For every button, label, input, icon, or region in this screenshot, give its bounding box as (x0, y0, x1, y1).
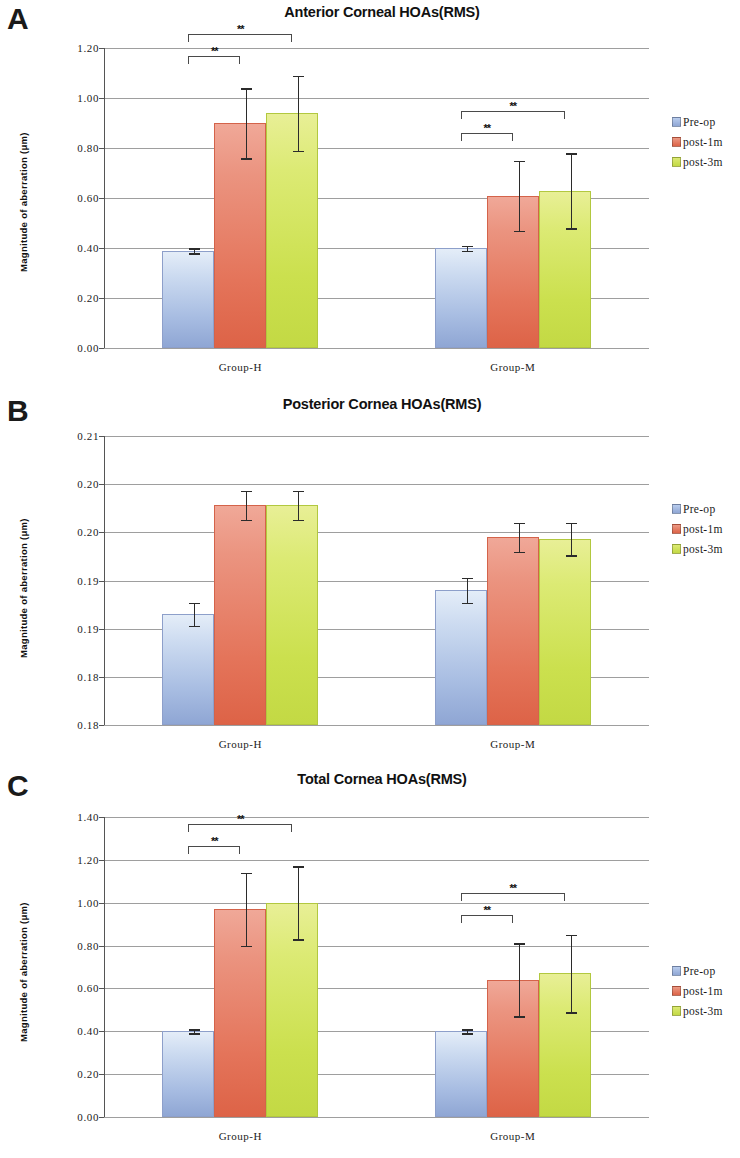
legend-swatch-post-1m-icon (672, 524, 681, 534)
significance-marker: ** (461, 101, 565, 111)
x-axis-category-label: Group-H (219, 361, 262, 373)
gridline (104, 148, 649, 149)
error-bar (298, 491, 299, 520)
error-bar-cap-bottom (514, 231, 525, 233)
error-bar-cap-bottom (514, 1016, 525, 1018)
y-axis-tick-label: 1.40 (77, 811, 99, 823)
legend-label-post-1m: post-1m (683, 523, 723, 535)
legend-item-post-1m: post-1m (672, 519, 723, 539)
panel-a-legend: Pre-op post-1m post-3m (672, 112, 723, 172)
error-bar-cap-top (293, 491, 304, 493)
bracket-tick-left (188, 824, 189, 832)
error-bar-cap-top (462, 1029, 473, 1031)
y-axis-tick-label: 1.00 (77, 897, 99, 909)
gridline (104, 1117, 649, 1118)
panel-a: A Anterior Corneal HOAs(RMS) Magnitude o… (0, 0, 740, 392)
bracket-tick-left (461, 133, 462, 141)
legend-item-post-1m: post-1m (672, 132, 723, 152)
error-bar (571, 153, 572, 228)
error-bar (298, 76, 299, 151)
error-bar-cap-top (514, 523, 525, 525)
error-bar-cap-top (189, 1029, 200, 1031)
bracket-tick-left (188, 34, 189, 42)
gridline (104, 725, 649, 726)
significance-bracket-inner: ** (461, 915, 513, 923)
error-bar-cap-bottom (293, 939, 304, 941)
error-bar-cap-bottom (241, 158, 252, 160)
legend-swatch-pre-op-icon (672, 966, 681, 976)
bracket-tick-right (291, 824, 292, 832)
gridline (104, 946, 649, 947)
bracket-tick-right (564, 893, 565, 901)
y-axis-tick-label: 0.40 (77, 1025, 99, 1037)
legend-swatch-pre-op-icon (672, 504, 681, 514)
error-bar-cap-bottom (462, 251, 473, 253)
y-axis-tick-label: 0.80 (77, 142, 99, 154)
y-axis-tick-label: 0.60 (77, 192, 99, 204)
y-axis-line (104, 436, 105, 725)
error-bar-cap-bottom (566, 555, 577, 557)
legend-label-pre-op: Pre-op (683, 116, 715, 128)
error-bar-cap-top (566, 935, 577, 937)
error-bar-cap-bottom (462, 1033, 473, 1035)
error-bar-cap-top (566, 523, 577, 525)
gridline (104, 484, 649, 485)
bar-group-h-post-1m (214, 909, 266, 1117)
bracket-tick-left (461, 915, 462, 923)
error-bar-cap-top (241, 88, 252, 90)
legend-swatch-post-3m-icon (672, 157, 681, 167)
significance-bracket-inner: ** (461, 133, 513, 141)
bar-group-h-post-3m (266, 505, 318, 725)
y-axis-tick-mark (99, 348, 104, 349)
y-axis-tick-label: 0.20 (77, 292, 99, 304)
error-bar (571, 935, 572, 1012)
x-axis-category-label: Group-M (490, 361, 535, 373)
legend-item-post-1m: post-1m (672, 981, 723, 1001)
panel-b-y-axis-label: Magnitude of aberration (μm) (18, 518, 29, 658)
bar-group-h-pre-op (162, 614, 214, 725)
bracket-tick-left (461, 111, 462, 119)
gridline (104, 532, 649, 533)
significance-marker: ** (188, 46, 240, 56)
bar-group-m-post-1m (487, 980, 539, 1117)
bar-group-m-post-3m (539, 973, 591, 1117)
legend-swatch-post-1m-icon (672, 137, 681, 147)
y-axis-tick-label: 0.80 (77, 940, 99, 952)
panel-b-title: Posterior Cornea HOAs(RMS) (0, 396, 740, 412)
error-bar-cap-top (514, 161, 525, 163)
error-bar-cap-top (189, 603, 200, 605)
error-bar-cap-bottom (514, 552, 525, 554)
panel-b-legend: Pre-op post-1m post-3m (672, 499, 723, 559)
error-bar (246, 491, 247, 520)
panel-c-title: Total Cornea HOAs(RMS) (0, 771, 740, 787)
y-axis-tick-label: 0.60 (77, 982, 99, 994)
error-bar-cap-bottom (241, 520, 252, 522)
x-axis-category-label: Group-H (219, 738, 262, 750)
x-axis-category-label: Group-H (219, 1130, 262, 1142)
legend-item-pre-op: Pre-op (672, 112, 723, 132)
y-axis-tick-label: 0.00 (77, 1111, 99, 1123)
legend-label-pre-op: Pre-op (683, 503, 715, 515)
bracket-tick-right (512, 133, 513, 141)
gridline (104, 436, 649, 437)
bracket-tick-right (512, 915, 513, 923)
legend-swatch-post-3m-icon (672, 544, 681, 554)
significance-bracket-outer: ** (461, 893, 565, 901)
error-bar (519, 943, 520, 1016)
bar-group-h-pre-op (162, 251, 214, 349)
legend-item-post-3m: post-3m (672, 1001, 723, 1021)
gridline (104, 903, 649, 904)
legend-item-pre-op: Pre-op (672, 961, 723, 981)
error-bar-cap-bottom (241, 946, 252, 948)
error-bar-cap-top (241, 873, 252, 875)
error-bar-cap-bottom (566, 228, 577, 230)
error-bar (467, 578, 468, 603)
legend-label-post-3m: post-3m (683, 1005, 723, 1017)
y-axis-tick-label: 0.19 (77, 623, 99, 635)
y-axis-tick-label: 0.19 (77, 575, 99, 587)
bar-group-h-post-1m (214, 505, 266, 725)
significance-marker: ** (188, 836, 240, 846)
error-bar-cap-top (189, 248, 200, 250)
error-bar (571, 523, 572, 556)
gridline (104, 98, 649, 99)
